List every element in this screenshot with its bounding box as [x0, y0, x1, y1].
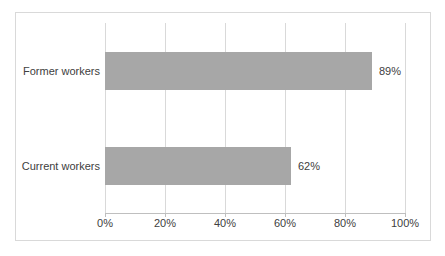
value-label-former-workers: 89% — [379, 65, 401, 77]
bar-former-workers — [105, 52, 372, 90]
category-label-current-workers: Current workers — [16, 118, 100, 213]
chart-frame: Former workers Current workers 89% 62% — [15, 12, 431, 241]
x-tick-label-60: 60% — [274, 217, 296, 229]
bar-row-former-workers: 89% — [105, 23, 405, 118]
plot-area: 89% 62% — [105, 23, 405, 213]
chart-canvas: Former workers Current workers 89% 62% — [0, 0, 445, 256]
x-tick-label-0: 0% — [97, 217, 113, 229]
x-tick-label-80: 80% — [334, 217, 356, 229]
category-axis: Former workers Current workers — [16, 23, 100, 213]
x-tick-label-20: 20% — [154, 217, 176, 229]
value-label-current-workers: 62% — [298, 160, 320, 172]
bar-current-workers — [105, 147, 291, 185]
x-tick-label-40: 40% — [214, 217, 236, 229]
x-axis-line — [105, 213, 406, 214]
category-label-former-workers: Former workers — [16, 23, 100, 118]
bar-row-current-workers: 62% — [105, 118, 405, 213]
x-axis-labels: 0% 20% 40% 60% 80% 100% — [105, 217, 405, 231]
gridline-100 — [405, 23, 406, 213]
x-tick-label-100: 100% — [391, 217, 419, 229]
